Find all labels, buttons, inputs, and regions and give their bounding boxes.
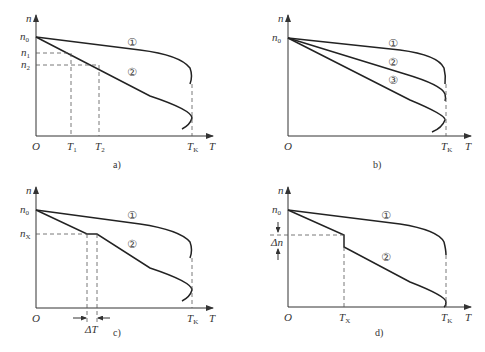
delta-n-label: Δn (270, 236, 283, 248)
TK-label: TK (441, 140, 452, 154)
y-axis-label: n (278, 12, 284, 24)
n0-label: n0 (20, 203, 30, 217)
panel-a: n n0 n1 n2 O T1 T2 TK T ① ② a) (20, 12, 216, 171)
x-axis-label: T (465, 311, 472, 323)
n0-label: n0 (20, 30, 30, 44)
curve-2 (36, 210, 192, 301)
nX-label: nX (20, 227, 31, 241)
curve-2-label: ② (388, 56, 398, 69)
n0-label: n0 (272, 31, 282, 45)
origin-label: O (32, 312, 40, 324)
y-axis-label: n (26, 12, 32, 24)
T1-label: T1 (67, 140, 77, 154)
curve-1-label: ① (388, 37, 398, 50)
y-axis-label: n (278, 184, 284, 196)
panel-c: n n0 nX O ΔT TK T ① ② c) (20, 184, 216, 339)
curve-2-label: ② (127, 66, 137, 79)
curve-3-label: ③ (388, 74, 398, 87)
caption-b: b) (373, 159, 381, 171)
T2-label: T2 (95, 140, 105, 154)
y-axis-label: n (26, 184, 32, 196)
TX-label: TX (339, 311, 350, 325)
curve-3 (288, 38, 445, 132)
x-axis-label: T (465, 140, 472, 152)
n0-label: n0 (272, 203, 282, 217)
origin-label: O (284, 311, 292, 323)
figure-canvas: n n0 n1 n2 O T1 T2 TK T ① ② a) n n0 O TK… (0, 0, 485, 352)
caption-c: c) (113, 327, 121, 339)
curve-2-label: ② (127, 238, 137, 251)
curve-1 (288, 210, 446, 255)
curve-1-label: ① (127, 209, 137, 222)
curve-2 (36, 37, 192, 129)
caption-d: d) (375, 327, 383, 339)
TK-label: TK (187, 312, 198, 326)
TK-label: TK (441, 311, 452, 325)
curve-2-label: ② (381, 251, 391, 264)
panel-d: n n0 Δn O TX TK T ① ② d) (270, 184, 472, 339)
deltaT-label: ΔT (84, 323, 98, 335)
x-axis-label: T (209, 140, 216, 152)
caption-a: a) (113, 159, 121, 171)
curve-1-label: ① (127, 36, 137, 49)
curve-1-label: ① (381, 209, 391, 222)
n2-label: n2 (21, 58, 31, 72)
curve-2 (288, 210, 446, 307)
origin-label: O (284, 140, 292, 152)
curve-2 (288, 38, 446, 101)
TK-label: TK (187, 140, 198, 154)
panel-b: n n0 O TK T ① ② ③ b) (272, 12, 472, 171)
x-axis-label: T (209, 312, 216, 324)
origin-label: O (32, 140, 40, 152)
